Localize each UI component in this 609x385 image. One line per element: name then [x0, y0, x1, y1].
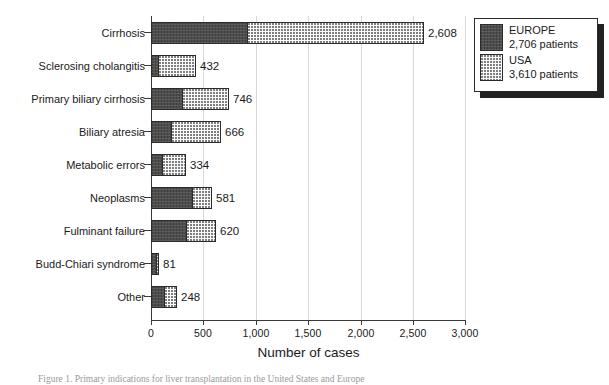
x-axis-tick	[465, 320, 466, 325]
bar-row-biliary-atresia: Biliary atresia 666	[0, 121, 609, 143]
x-axis-tick	[308, 320, 309, 325]
category-tick	[144, 98, 151, 99]
category-tick	[144, 164, 151, 165]
stacked-bar	[151, 55, 196, 77]
chart-legend: EUROPE 2,706 patients USA 3,610 patients	[474, 18, 598, 92]
category-label: Biliary atresia	[79, 121, 145, 143]
legend-patients-europe: 2,706 patients	[509, 37, 578, 51]
bar-segment-usa	[158, 55, 196, 77]
legend-entry-usa: USA 3,610 patients	[480, 53, 592, 81]
bar-row-other: Other 248	[0, 286, 609, 308]
category-label: Sclerosing cholangitis	[39, 55, 145, 77]
bar-segment-europe	[151, 187, 192, 209]
x-axis-tick-label: 3,000	[452, 327, 479, 339]
bar-segment-europe	[151, 220, 186, 242]
bar-value-label: 432	[200, 55, 219, 77]
category-tick	[144, 131, 151, 132]
bar-segment-usa	[192, 187, 212, 209]
x-axis-tick	[256, 320, 257, 325]
stacked-bar	[151, 220, 216, 242]
bar-value-label: 2,608	[428, 22, 457, 44]
legend-label-usa: USA	[509, 53, 578, 67]
category-label: Other	[117, 286, 145, 308]
bar-row-neoplasms: Neoplasms 581	[0, 187, 609, 209]
category-tick	[144, 65, 151, 66]
x-axis-title: Number of cases	[151, 345, 466, 360]
x-axis-tick	[151, 320, 152, 325]
bar-value-label: 620	[220, 220, 239, 242]
category-label: Cirrhosis	[102, 22, 145, 44]
stacked-bar	[151, 187, 212, 209]
bar-row-metabolic-errors: Metabolic errors 334	[0, 154, 609, 176]
category-tick	[144, 197, 151, 198]
legend-swatch-usa-icon	[480, 54, 503, 81]
bar-segment-europe	[151, 154, 162, 176]
category-label: Budd-Chiari syndrome	[36, 253, 145, 275]
bar-segment-usa	[171, 121, 220, 143]
stacked-bar	[151, 22, 424, 44]
category-label: Neoplasms	[90, 187, 145, 209]
bar-value-label: 666	[225, 121, 244, 143]
x-axis-tick-label: 1,500	[295, 327, 322, 339]
bar-segment-usa	[182, 88, 229, 110]
bar-segment-usa	[247, 22, 424, 44]
legend-label-europe: EUROPE	[509, 23, 578, 37]
bar-value-label: 581	[216, 187, 235, 209]
category-label: Fulminant failure	[64, 220, 145, 242]
x-axis-tick	[413, 320, 414, 325]
x-axis-tick	[361, 320, 362, 325]
category-tick	[144, 230, 151, 231]
x-axis-tick-label: 500	[194, 327, 212, 339]
bar-segment-usa	[186, 220, 216, 242]
bar-segment-europe	[151, 121, 171, 143]
stacked-bar	[151, 88, 229, 110]
category-label: Metabolic errors	[66, 154, 145, 176]
stacked-bar	[151, 154, 186, 176]
bar-segment-usa	[162, 154, 186, 176]
bar-value-label: 81	[163, 253, 176, 275]
legend-swatch-europe-icon	[480, 24, 503, 51]
bar-segment-europe	[151, 286, 164, 308]
bar-value-label: 334	[190, 154, 209, 176]
bar-value-label: 248	[181, 286, 200, 308]
x-axis-tick-label: 1,000	[243, 327, 270, 339]
bar-segment-usa	[156, 253, 160, 275]
bar-segment-europe	[151, 55, 158, 77]
category-tick	[144, 32, 151, 33]
bar-row-fulminant-failure: Fulminant failure 620	[0, 220, 609, 242]
bar-segment-usa	[164, 286, 177, 308]
x-axis-tick	[203, 320, 204, 325]
x-axis-tick-label: 0	[148, 327, 154, 339]
bar-segment-europe	[151, 22, 247, 44]
bar-segment-europe	[151, 88, 182, 110]
stacked-bar	[151, 121, 221, 143]
category-tick	[144, 263, 151, 264]
legend-patients-usa: 3,610 patients	[509, 67, 578, 81]
stacked-bar	[151, 286, 177, 308]
bar-value-label: 746	[233, 88, 252, 110]
category-tick	[144, 296, 151, 297]
figure-caption: Figure 1. Primary indications for liver …	[38, 374, 598, 384]
legend-entry-europe: EUROPE 2,706 patients	[480, 23, 592, 51]
x-axis-tick-label: 2,000	[348, 327, 375, 339]
category-label: Primary biliary cirrhosis	[31, 88, 145, 110]
stacked-bar	[151, 253, 160, 275]
bar-chart: Cirrhosis 2,608 Sclerosing cholangitis 4…	[0, 0, 609, 385]
bar-row-budd-chiari-syndrome: Budd-Chiari syndrome 81	[0, 253, 609, 275]
x-axis-tick-label: 2,500	[400, 327, 427, 339]
